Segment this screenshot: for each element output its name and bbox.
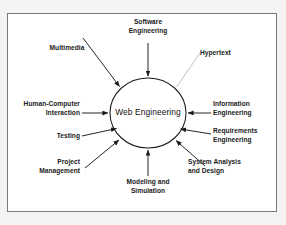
node-label-project-management: Project Management	[14, 158, 80, 175]
node-label-software-engineering: Software Engineering	[116, 18, 180, 35]
node-label-modeling-and-simulation: Modeling and Simulation	[112, 178, 184, 195]
diagram-root: Web Engineering Software Engineering Mul…	[0, 0, 286, 225]
node-label-multimedia: Multimedia	[36, 44, 98, 53]
connector-hypertext	[177, 53, 201, 87]
node-label-human-computer-interaction: Human-Computer Interaction	[8, 100, 80, 117]
node-label-testing: Testing	[20, 132, 80, 141]
node-label-requirements-engineering: Requirements Engineering	[213, 127, 279, 144]
connector-project-management	[85, 140, 119, 168]
connector-requirements-engineering	[181, 129, 212, 134]
connector-testing	[82, 129, 117, 137]
center-label: Web Engineering	[110, 107, 186, 117]
node-label-hypertext: Hypertext	[200, 49, 260, 58]
node-label-system-analysis-and-design: System Analysis and Design	[188, 158, 262, 175]
node-label-information-engineering: Information Engineering	[213, 100, 277, 117]
